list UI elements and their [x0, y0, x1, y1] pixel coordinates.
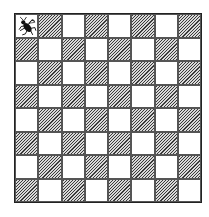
board-square: [108, 108, 131, 132]
board-square: [15, 61, 38, 85]
board-square: [155, 14, 178, 38]
board-square: [131, 14, 154, 38]
board-square: [131, 38, 154, 62]
board-square: [155, 38, 178, 62]
board-square: [178, 108, 201, 132]
board-square: [131, 108, 154, 132]
board-square: [62, 155, 85, 179]
board-square: [62, 108, 85, 132]
board-square: [178, 155, 201, 179]
board-square: [62, 132, 85, 156]
board-square: [38, 179, 61, 203]
board-square: [178, 132, 201, 156]
board-square: [155, 85, 178, 109]
board-square: [15, 85, 38, 109]
board-square: [108, 38, 131, 62]
board-square: [131, 179, 154, 203]
board-square: [108, 155, 131, 179]
board-square: [178, 85, 201, 109]
board-square: [38, 61, 61, 85]
board-square: [155, 61, 178, 85]
board-square: [131, 61, 154, 85]
board-square: [178, 38, 201, 62]
board-square: [15, 38, 38, 62]
board-square: [85, 14, 108, 38]
board-square: [178, 61, 201, 85]
board-square: [38, 38, 61, 62]
board-square: [62, 85, 85, 109]
board-square: [15, 108, 38, 132]
board-square: [155, 132, 178, 156]
board-square: [85, 179, 108, 203]
board-square: [15, 132, 38, 156]
board-square: [38, 85, 61, 109]
board-square: [85, 108, 108, 132]
board-square: [38, 132, 61, 156]
board-square: [15, 179, 38, 203]
board-square: [62, 38, 85, 62]
board-square: [38, 155, 61, 179]
board-square: [108, 61, 131, 85]
board-square: [108, 179, 131, 203]
board-square: [85, 38, 108, 62]
board-square: [131, 132, 154, 156]
board-square: [108, 85, 131, 109]
board-square: [62, 14, 85, 38]
board-square: [85, 155, 108, 179]
board-square: [155, 155, 178, 179]
board-square: [62, 179, 85, 203]
board-square: [108, 14, 131, 38]
board-square: [178, 179, 201, 203]
bug-icon: [17, 16, 38, 37]
board-square: [38, 14, 61, 38]
checkerboard: [14, 13, 202, 203]
board-square: [178, 14, 201, 38]
board-square: [15, 155, 38, 179]
board-square: [15, 14, 38, 38]
board-square: [155, 179, 178, 203]
board-square: [108, 132, 131, 156]
board-square: [62, 61, 85, 85]
board-square: [131, 85, 154, 109]
board-square: [131, 155, 154, 179]
board-square: [38, 108, 61, 132]
board-square: [85, 61, 108, 85]
board-square: [85, 132, 108, 156]
board-square: [85, 85, 108, 109]
board-square: [155, 108, 178, 132]
